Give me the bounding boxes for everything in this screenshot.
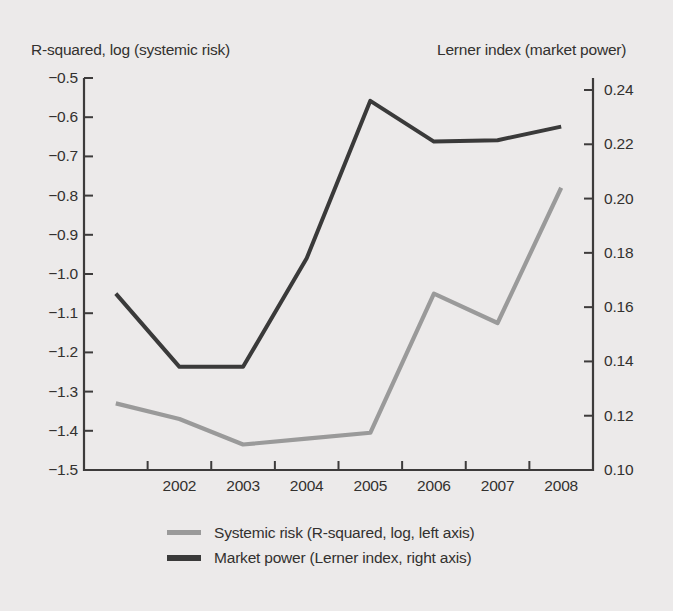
left-tick-label: −1.4 — [48, 422, 78, 440]
x-axis-tick-labels: 2002200320042005200620072008 — [0, 477, 673, 501]
left-tick-label: −1.1 — [48, 304, 78, 322]
series-layer — [116, 101, 561, 445]
legend-swatch-market-power — [167, 555, 201, 561]
legend-label-market-power: Market power (Lerner index, right axis) — [214, 549, 472, 567]
right-tick-label: 0.12 — [604, 407, 633, 425]
x-tick-label: 2003 — [226, 477, 260, 495]
chart-legend: Systemic risk (R-squared, log, left axis… — [0, 520, 673, 570]
left-tick-label: −0.8 — [48, 187, 78, 205]
left-tick-label: −0.6 — [48, 108, 78, 126]
x-tick-label: 2008 — [544, 477, 578, 495]
right-tick-label: 0.22 — [604, 135, 633, 153]
left-tick-label: −1.3 — [48, 383, 78, 401]
right-axis-ticks — [584, 90, 593, 470]
right-tick-label: 0.14 — [604, 352, 633, 370]
legend-item-systemic-risk: Systemic risk (R-squared, log, left axis… — [0, 520, 673, 545]
left-tick-label: −0.9 — [48, 226, 78, 244]
left-axis-ticks — [84, 78, 93, 470]
left-tick-label: −0.5 — [48, 69, 78, 87]
right-tick-label: 0.16 — [604, 298, 633, 316]
x-tick-label: 2006 — [417, 477, 451, 495]
legend-item-market-power: Market power (Lerner index, right axis) — [0, 545, 673, 570]
x-tick-label: 2004 — [290, 477, 324, 495]
right-tick-label: 0.20 — [604, 190, 633, 208]
left-tick-label: −1.2 — [48, 343, 78, 361]
chart-figure: R-squared, log (systemic risk) Lerner in… — [0, 0, 673, 611]
legend-label-systemic-risk: Systemic risk (R-squared, log, left axis… — [214, 524, 475, 542]
right-tick-label: 0.24 — [604, 81, 633, 99]
legend-swatch-systemic-risk — [167, 530, 201, 535]
x-tick-label: 2005 — [353, 477, 387, 495]
x-tick-label: 2002 — [163, 477, 197, 495]
x-axis-ticks — [148, 461, 530, 470]
left-tick-label: −1.0 — [48, 265, 78, 283]
right-tick-label: 0.18 — [604, 244, 633, 262]
x-tick-label: 2007 — [481, 477, 515, 495]
left-tick-label: −0.7 — [48, 147, 78, 165]
